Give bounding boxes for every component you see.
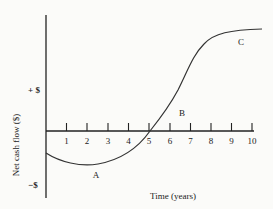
chart: 1 2 3 4 5 6 7 8 9 10 + $ −$ Net cash flo… xyxy=(0,0,273,209)
label-c: C xyxy=(238,37,244,47)
svg-text:9: 9 xyxy=(229,136,234,146)
y-axis-title: Net cash flow ($) xyxy=(11,114,21,177)
y-negative-label: −$ xyxy=(28,180,38,190)
x-ticks xyxy=(67,123,253,131)
svg-text:6: 6 xyxy=(168,136,173,146)
svg-text:3: 3 xyxy=(106,136,111,146)
svg-text:2: 2 xyxy=(85,136,90,146)
x-axis-title: Time (years) xyxy=(150,191,196,201)
svg-text:1: 1 xyxy=(64,136,69,146)
svg-text:4: 4 xyxy=(126,136,131,146)
label-a: A xyxy=(93,170,100,180)
y-positive-label: + $ xyxy=(28,85,40,95)
svg-text:8: 8 xyxy=(209,136,214,146)
svg-text:7: 7 xyxy=(188,136,193,146)
svg-text:5: 5 xyxy=(147,136,152,146)
svg-text:10: 10 xyxy=(248,136,258,146)
x-tick-labels: 1 2 3 4 5 6 7 8 9 10 xyxy=(64,136,257,146)
label-b: B xyxy=(179,108,185,118)
